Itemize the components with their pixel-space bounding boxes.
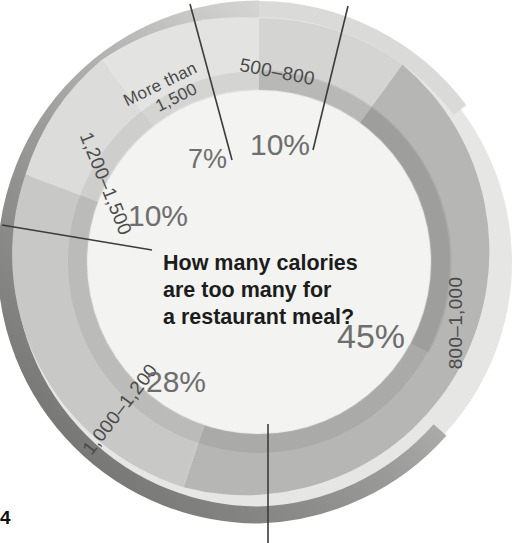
percent-500-800: 10% <box>250 128 310 161</box>
question-line-1: How many calories <box>163 251 358 275</box>
percent-1200-1500: 10% <box>128 199 188 232</box>
percent-1000-1200: 28% <box>146 365 206 398</box>
page-number: 4 <box>0 508 11 527</box>
infographic-canvas: 500–800 800–1,000 1,000–1,200 1,200–1,50… <box>0 0 519 543</box>
question-line-3: a restaurant meal? <box>163 305 354 329</box>
percent-more-than-1500: 7% <box>188 144 227 174</box>
question-line-2: are too many for <box>163 278 332 302</box>
center-question: How many calories are too many for a res… <box>163 251 358 329</box>
donut-chart: 500–800 800–1,000 1,000–1,200 1,200–1,50… <box>0 0 519 543</box>
category-label-800-1000: 800–1,000 <box>445 277 466 370</box>
